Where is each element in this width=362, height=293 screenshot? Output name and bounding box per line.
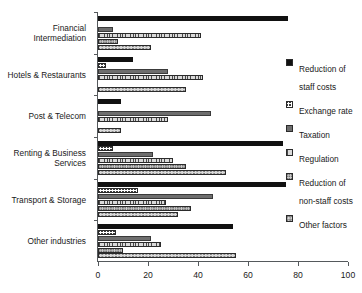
category-label: Renting & Business Services [0,148,86,168]
bar [98,194,213,199]
bar [98,117,168,122]
bar [98,16,288,21]
legend-label: Other factors [299,220,347,230]
bar [98,170,226,175]
category-label: Post & Telecom [0,111,86,121]
category-label: Financial Intermediation [0,23,86,43]
x-axis-tick-label: 60 [233,270,263,280]
x-axis-tick-label: 20 [133,270,163,280]
legend-swatch [286,59,293,66]
legend-swatch [286,149,293,156]
bar [98,128,121,133]
legend-label: Reduction of staff costs [299,64,346,92]
y-axis-tick [94,95,98,96]
x-axis-tick [248,262,249,266]
bar [98,242,161,247]
legend-swatch [286,173,293,180]
bar [98,206,191,211]
bar [98,69,168,74]
y-axis-tick [94,137,98,138]
x-axis-line [97,261,348,262]
y-axis-tick [94,179,98,180]
bar [98,87,186,92]
legend-item: Exchange rate [286,100,362,118]
legend-swatch [286,215,293,222]
legend-label: Reduction of non-staff costs [299,178,353,206]
bar [98,164,186,169]
bar [98,99,121,104]
y-axis-tick [94,220,98,221]
x-axis-tick [148,262,149,266]
x-axis-tick [348,262,349,266]
bar [98,27,113,32]
bar [98,224,233,229]
category-label: Transport & Storage [0,195,86,205]
bar [98,63,106,68]
legend-label: Regulation [299,154,339,164]
x-axis-tick-label: 80 [283,270,313,280]
bar [98,236,151,241]
x-axis-tick [198,262,199,266]
bar [98,230,116,235]
category-axis-labels: Financial IntermediationHotels & Restaur… [0,12,90,262]
x-axis-tick [298,262,299,266]
x-axis-tick-label: 100 [333,270,362,280]
bar [98,158,173,163]
bar [98,248,123,253]
bar [98,141,283,146]
y-axis-tick [94,54,98,55]
x-axis-tick [98,262,99,266]
bar [98,188,138,193]
legend-swatch [286,125,293,132]
bar [98,146,113,151]
bar [98,75,203,80]
legend-item: Reduction of non-staff costs [286,172,362,208]
bar [98,39,118,44]
legend-item: Other factors [286,214,362,232]
legend-label: Taxation [299,130,330,140]
legend-swatch [286,101,293,108]
bar [98,45,151,50]
y-axis-tick [94,12,98,13]
category-label: Hotels & Restaurants [0,70,86,80]
bar-chart: Financial IntermediationHotels & Restaur… [0,0,362,293]
bar [98,182,286,187]
bar [98,200,166,205]
bar [98,57,133,62]
legend-item: Taxation [286,124,362,142]
bar [98,152,153,157]
bar [98,111,211,116]
x-axis-tick-label: 0 [83,270,113,280]
legend-label: Exchange rate [299,106,353,116]
bar [98,253,236,258]
x-axis-tick-label: 40 [183,270,213,280]
bar [98,33,201,38]
legend-item: Regulation [286,148,362,166]
legend-item: Reduction of staff costs [286,58,362,94]
chart-legend: Reduction of staff costsExchange rateTax… [286,58,362,238]
category-label: Other industries [0,236,86,246]
bar [98,212,178,217]
